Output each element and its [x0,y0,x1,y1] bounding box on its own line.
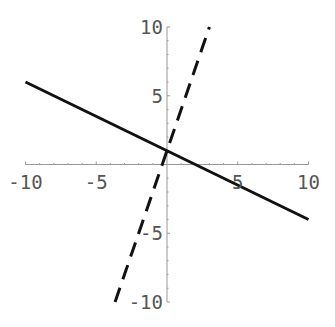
x-tick-label: 10 [297,171,320,193]
x-tick-label: -10 [8,171,42,193]
x-tick-label: -5 [85,171,108,193]
y-tick-label: -5 [140,222,163,244]
x-tick-label: 5 [232,171,243,193]
y-tick-label: 10 [140,16,163,38]
line-chart: -10-5510-10-5510 [0,0,335,327]
y-tick-label: 5 [152,85,163,107]
y-tick-label: -10 [129,291,163,313]
axes [26,27,309,302]
